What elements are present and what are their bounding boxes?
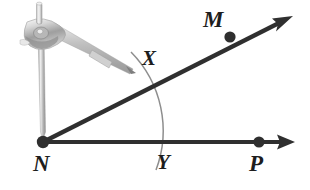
- point-label-x: X: [142, 48, 156, 69]
- point-label-p: P: [249, 152, 263, 175]
- ray-nm: [43, 16, 293, 142]
- point-label-n: N: [33, 152, 50, 175]
- compass-icon: [20, 2, 136, 140]
- point-label-m: M: [203, 8, 223, 31]
- compass-needle-leg: [38, 34, 46, 141]
- point-dot-n: [37, 136, 49, 148]
- compass-pivot-screw: [37, 29, 43, 34]
- compass-knob-cap: [36, 2, 42, 5]
- point-dot-m: [224, 31, 235, 42]
- diagram-canvas: M X N Y P: [0, 0, 310, 190]
- point-dot-p: [253, 136, 264, 147]
- compass-knob: [37, 3, 43, 24]
- point-label-y: Y: [157, 152, 170, 173]
